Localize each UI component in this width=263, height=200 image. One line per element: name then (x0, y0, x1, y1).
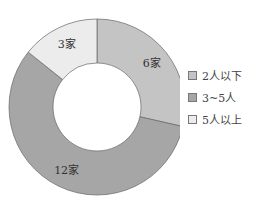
legend-item-0: 2人以下 (188, 64, 242, 86)
slice-label: 12家 (54, 163, 79, 177)
slice-label: 6家 (143, 56, 161, 70)
donut-slice (97, 19, 180, 127)
legend: 2人以下 3~5人 5人以上 (188, 64, 242, 130)
legend-swatch (188, 71, 197, 80)
legend-label: 2人以下 (202, 67, 242, 83)
legend-label: 5人以上 (202, 111, 242, 127)
legend-swatch (188, 93, 197, 102)
slice-label: 3家 (58, 37, 76, 51)
donut-chart: 6家12家3家 (0, 0, 180, 200)
legend-label: 3~5人 (202, 89, 236, 105)
legend-swatch (188, 115, 197, 124)
legend-item-2: 5人以上 (188, 108, 242, 130)
legend-item-1: 3~5人 (188, 86, 242, 108)
